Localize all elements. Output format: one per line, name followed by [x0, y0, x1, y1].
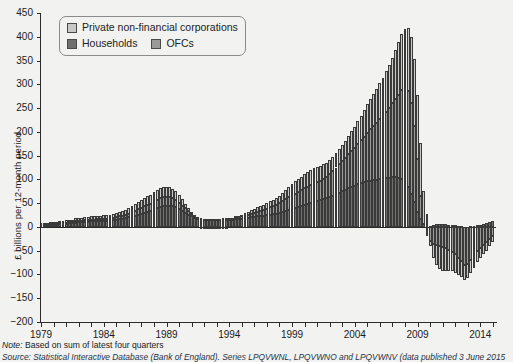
x-tick-mark [267, 323, 268, 327]
x-tick-mark [380, 323, 381, 327]
x-tick-mark [116, 323, 117, 327]
x-tick-mark [342, 323, 343, 327]
legend-item-pnfc: Private non-financial corporations [67, 21, 238, 34]
x-tick-mark [154, 323, 155, 327]
y-tick-label: −50 [0, 245, 33, 256]
x-tick-mark [179, 323, 180, 327]
chart-source: Source: Statistical Interactive Database… [2, 352, 505, 362]
x-tick-label: 2014 [460, 329, 500, 340]
y-tick-label: −100 [0, 268, 33, 279]
y-tick-label: 100 [0, 173, 33, 184]
x-tick-mark [66, 323, 67, 327]
legend-label-ofcs: OFCs [166, 37, 193, 50]
legend-label-households: Households [82, 37, 137, 50]
x-tick-label: 1994 [209, 329, 249, 340]
x-tick-mark [292, 323, 293, 327]
x-tick-mark [317, 323, 318, 327]
bar-group [491, 13, 494, 322]
x-tick-mark [480, 323, 481, 327]
x-tick-mark [443, 323, 444, 327]
x-tick-mark [367, 323, 368, 327]
x-tick-label: 1984 [84, 329, 124, 340]
x-tick-label: 2004 [335, 329, 375, 340]
y-tick-label: 300 [0, 78, 33, 89]
x-tick-label: 2009 [398, 329, 438, 340]
x-tick-mark [468, 323, 469, 327]
x-tick-mark [129, 323, 130, 327]
x-tick-mark [430, 323, 431, 327]
x-tick-mark [330, 323, 331, 327]
x-tick-mark [279, 323, 280, 327]
note-prefix: Note: [2, 340, 23, 350]
x-tick-mark [455, 323, 456, 327]
chart-container: £ billions per 12-month period 450400350… [0, 0, 513, 362]
x-tick-mark [217, 323, 218, 327]
x-tick-mark [104, 323, 105, 327]
y-tick-label: 250 [0, 102, 33, 113]
legend-row-secondary: Households OFCs [67, 37, 238, 50]
x-tick-mark [418, 323, 419, 327]
x-tick-mark [405, 323, 406, 327]
x-tick-mark [254, 323, 255, 327]
chart-legend: Private non-financial corporations House… [59, 16, 246, 56]
x-tick-mark [392, 323, 393, 327]
bar-segment [491, 227, 494, 237]
x-tick-mark [242, 323, 243, 327]
y-tick-label: 450 [0, 7, 33, 18]
y-tick-label: −150 [0, 292, 33, 303]
y-tick-label: 350 [0, 55, 33, 66]
x-tick-mark [91, 323, 92, 327]
x-tick-mark [79, 323, 80, 327]
x-tick-mark [192, 323, 193, 327]
y-tick-label: 50 [0, 197, 33, 208]
x-tick-mark [355, 323, 356, 327]
y-tick-label: 150 [0, 150, 33, 161]
x-axis-line [40, 322, 497, 323]
x-tick-mark [204, 323, 205, 327]
x-tick-label: 1979 [21, 329, 61, 340]
x-tick-mark [141, 323, 142, 327]
y-tick-label: 0 [0, 221, 33, 232]
legend-swatch-pnfc [67, 23, 77, 33]
y-tick-label: 200 [0, 126, 33, 137]
legend-label-pnfc: Private non-financial corporations [82, 21, 238, 34]
note-text: Based on sum of latest four quarters [25, 340, 164, 350]
chart-note: Note: Based on sum of latest four quarte… [2, 340, 163, 350]
y-tick-label: 400 [0, 31, 33, 42]
x-tick-mark [54, 323, 55, 327]
plot-area [41, 13, 496, 322]
bar-segment [491, 236, 494, 242]
x-tick-mark [229, 323, 230, 327]
x-tick-label: 1999 [272, 329, 312, 340]
x-tick-mark [167, 323, 168, 327]
y-tick-label: −200 [0, 316, 33, 327]
legend-swatch-households [67, 39, 77, 49]
x-tick-mark [305, 323, 306, 327]
x-tick-label: 1989 [147, 329, 187, 340]
x-tick-mark [41, 323, 42, 327]
legend-swatch-ofcs [151, 39, 161, 49]
x-tick-mark [493, 323, 494, 327]
